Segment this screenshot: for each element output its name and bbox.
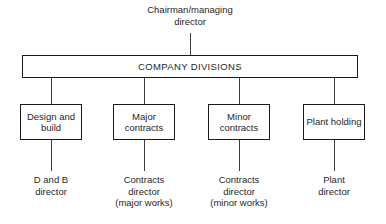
connector-design-and-build-to-role: [51, 140, 52, 171]
division-box-design-and-build: Design and build: [20, 104, 82, 140]
divisions-bar: COMPANY DIVISIONS: [22, 55, 358, 78]
connector-root-to-divisions: [190, 33, 191, 55]
connector-plant-holding-to-role: [334, 140, 335, 171]
role-label-line-2: director: [92, 186, 196, 198]
divisions-bar-label: COMPANY DIVISIONS: [138, 61, 242, 72]
role-label-line-2: director: [187, 186, 291, 198]
role-label-contracts-director-minor-works: Contracts director (minor works): [187, 174, 291, 209]
role-label-plant-director: Plant director: [282, 174, 386, 197]
connector-minor-contracts-to-role: [239, 140, 240, 171]
division-box-minor-contracts: Minor contracts: [208, 104, 270, 140]
root-node-line-1: Chairman/managing: [120, 4, 260, 16]
role-label-line-1: D and B: [0, 174, 103, 186]
root-node-chairman: Chairman/managing director: [120, 4, 260, 27]
connector-divisions-to-minor-contracts: [239, 78, 240, 104]
role-label-line-1: Contracts: [92, 174, 196, 186]
role-label-line-2: director: [282, 186, 386, 198]
division-box-major-contracts: Major contracts: [113, 104, 175, 140]
role-label-line-3: (minor works): [187, 197, 291, 209]
division-box-label: Major contracts: [114, 111, 174, 134]
role-label-line-3: (major works): [92, 197, 196, 209]
division-box-label: Design and build: [21, 111, 81, 134]
division-box-plant-holding: Plant holding: [303, 104, 365, 140]
root-node-line-2: director: [120, 16, 260, 28]
role-label-line-2: director: [0, 186, 103, 198]
org-chart: Chairman/managing director COMPANY DIVIS…: [0, 0, 386, 224]
role-label-line-1: Plant: [282, 174, 386, 186]
connector-divisions-to-plant-holding: [334, 78, 335, 104]
division-box-label: Minor contracts: [209, 111, 269, 134]
role-label-line-1: Contracts: [187, 174, 291, 186]
connector-major-contracts-to-role: [144, 140, 145, 171]
role-label-d-and-b-director: D and B director: [0, 174, 103, 197]
connector-divisions-to-design-and-build: [51, 78, 52, 104]
connector-divisions-to-major-contracts: [144, 78, 145, 104]
division-box-label: Plant holding: [307, 116, 362, 128]
role-label-contracts-director-major-works: Contracts director (major works): [92, 174, 196, 209]
